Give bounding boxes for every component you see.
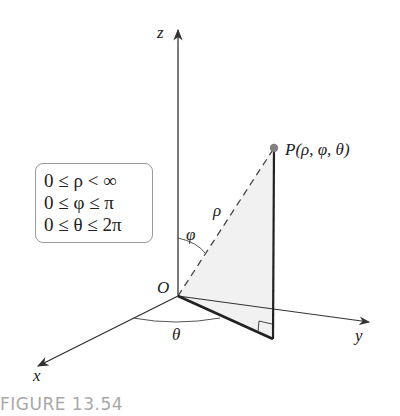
- phi-range: 0 ≤ φ ≤ π: [44, 192, 152, 214]
- x-axis: [38, 296, 178, 366]
- coordinate-ranges-box: 0 ≤ ρ < ∞ 0 ≤ φ ≤ π 0 ≤ θ ≤ 2π: [35, 163, 153, 243]
- z-axis-label: z: [157, 24, 164, 41]
- phi-label: φ: [186, 226, 195, 243]
- rho-range: 0 ≤ ρ < ∞: [44, 170, 152, 192]
- x-axis-label: x: [33, 367, 41, 384]
- theta-range: 0 ≤ θ ≤ 2π: [44, 214, 152, 236]
- theta-label: θ: [172, 326, 180, 343]
- figure-caption: FIGURE 13.54: [0, 394, 123, 414]
- point-p-label: P(ρ, φ, θ): [285, 141, 350, 158]
- y-axis-label: y: [355, 327, 363, 344]
- origin-label: O: [157, 279, 169, 296]
- vertical-line: [273, 148, 274, 339]
- theta-arc: [133, 318, 220, 322]
- point-p: [270, 144, 278, 152]
- rho-label: ρ: [213, 202, 221, 219]
